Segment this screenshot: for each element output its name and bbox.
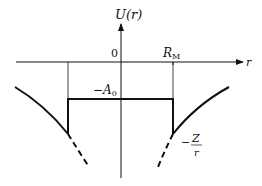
right-coulomb-curve — [173, 87, 229, 134]
coulomb-numerator: Z — [191, 132, 200, 145]
coulomb-denominator: r — [194, 147, 200, 158]
radius-label: RM — [162, 46, 180, 61]
potential-well-diagram: U(r) r 0 RM −A0 − Z r — [0, 0, 262, 186]
x-axis-label: r — [246, 56, 252, 69]
left-coulomb-dashed — [68, 134, 89, 167]
coulomb-sign: − — [181, 136, 190, 149]
origin-label: 0 — [111, 47, 118, 60]
right-coulomb-dashed — [158, 134, 173, 167]
coulomb-label: − Z r — [181, 132, 202, 158]
y-axis-label: U(r) — [115, 7, 142, 22]
left-coulomb-curve — [15, 87, 68, 134]
well-depth-label: −A0 — [93, 83, 117, 98]
